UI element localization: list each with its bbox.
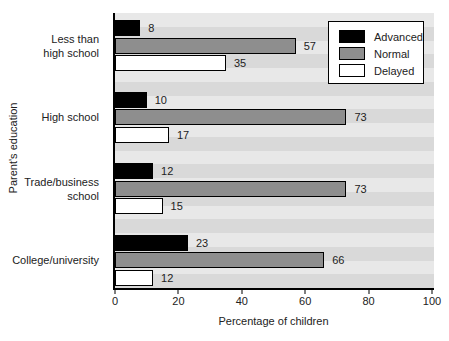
legend-label: Advanced bbox=[374, 31, 423, 43]
bar-value-label: 73 bbox=[354, 109, 366, 125]
category-labels: Less thanhigh schoolHigh schoolTrade/bus… bbox=[0, 13, 106, 288]
x-tick-label: 60 bbox=[299, 295, 311, 307]
x-axis-ticks: 020406080100 bbox=[115, 290, 432, 310]
category-label: High school bbox=[0, 110, 99, 124]
bar-value-label: 57 bbox=[304, 38, 316, 54]
bar-value-label: 23 bbox=[196, 235, 208, 251]
category-label: Trade/businessschool bbox=[0, 174, 99, 203]
bar-value-label: 17 bbox=[177, 127, 189, 143]
bar-delayed-group2 bbox=[115, 127, 169, 143]
x-tick-mark bbox=[305, 290, 306, 294]
legend-swatch-delayed bbox=[339, 64, 365, 77]
x-tick-label: 40 bbox=[236, 295, 248, 307]
x-tick-label: 20 bbox=[172, 295, 184, 307]
bar-chart-figure: Parent's education Less thanhigh schoolH… bbox=[0, 0, 449, 341]
legend-swatch-normal bbox=[339, 47, 365, 60]
bar-value-label: 35 bbox=[234, 55, 246, 71]
legend-label: Normal bbox=[374, 48, 409, 60]
bar-normal-group1 bbox=[115, 38, 296, 54]
bar-normal-group2 bbox=[115, 109, 346, 125]
bar-advanced-group1 bbox=[115, 20, 140, 36]
bar-value-label: 8 bbox=[148, 20, 154, 36]
bar-delayed-group1 bbox=[115, 55, 226, 71]
bar-normal-group4 bbox=[115, 252, 324, 268]
x-tick-label: 0 bbox=[112, 295, 118, 307]
legend-swatch-advanced bbox=[339, 30, 365, 43]
x-tick-mark bbox=[432, 290, 433, 294]
bar-normal-group3 bbox=[115, 181, 346, 197]
x-tick-label: 100 bbox=[423, 295, 441, 307]
x-tick-label: 80 bbox=[362, 295, 374, 307]
x-tick-mark bbox=[368, 290, 369, 294]
bar-advanced-group4 bbox=[115, 235, 188, 251]
x-tick-mark bbox=[178, 290, 179, 294]
legend-label: Delayed bbox=[374, 65, 414, 77]
bar-value-label: 12 bbox=[161, 163, 173, 179]
legend-item-delayed: Delayed bbox=[339, 62, 423, 79]
category-label: Less thanhigh school bbox=[0, 31, 99, 60]
category-label: College/university bbox=[0, 253, 99, 267]
legend: AdvancedNormalDelayed bbox=[328, 21, 424, 84]
x-axis-title: Percentage of children bbox=[115, 315, 432, 327]
bar-delayed-group3 bbox=[115, 198, 163, 214]
bar-value-label: 15 bbox=[171, 198, 183, 214]
x-tick-mark bbox=[115, 290, 116, 294]
bar-value-label: 12 bbox=[161, 270, 173, 286]
legend-item-normal: Normal bbox=[339, 45, 423, 62]
legend-item-advanced: Advanced bbox=[339, 28, 423, 45]
bar-advanced-group3 bbox=[115, 163, 153, 179]
bar-value-label: 73 bbox=[354, 181, 366, 197]
bar-advanced-group2 bbox=[115, 92, 147, 108]
bar-value-label: 66 bbox=[332, 252, 344, 268]
bar-value-label: 10 bbox=[155, 92, 167, 108]
x-tick-mark bbox=[241, 290, 242, 294]
bar-delayed-group4 bbox=[115, 270, 153, 286]
